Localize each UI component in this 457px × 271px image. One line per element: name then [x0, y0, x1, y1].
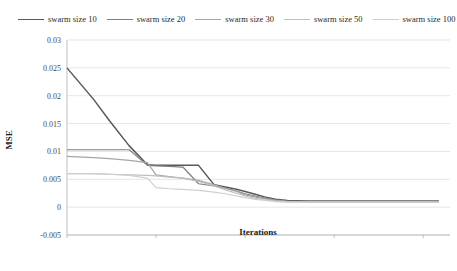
- series-line-swarm-size-10: [67, 68, 439, 201]
- plot-area-wrapper: 0.030.0250.020.0150.010.0050-0.005 11010…: [0, 30, 457, 240]
- legend-item-swarm-size-100[interactable]: swarm size 100: [373, 15, 456, 24]
- x-axis-title: Iterations: [239, 227, 277, 237]
- legend-label: swarm size 30: [225, 15, 274, 24]
- y-tick-label: 0: [57, 203, 61, 212]
- legend-swatch-line-icon: [195, 19, 221, 20]
- legend-item-swarm-size-10[interactable]: swarm size 10: [18, 15, 97, 24]
- gridlines: [67, 40, 450, 235]
- data-series: [67, 68, 439, 202]
- y-axis-title: MSE: [4, 130, 14, 150]
- legend-label: swarm size 10: [48, 15, 97, 24]
- chart-container: swarm size 10swarm size 20swarm size 30s…: [0, 0, 457, 271]
- axis-lines: [67, 40, 450, 235]
- y-tick-label: 0.025: [43, 64, 61, 73]
- y-tick-label: 0.03: [47, 36, 61, 45]
- legend-label: swarm size 20: [137, 15, 186, 24]
- y-tick-label: -0.005: [40, 231, 61, 240]
- y-tick-label: 0.005: [43, 175, 61, 184]
- y-tick-label: 0.015: [43, 120, 61, 129]
- series-line-swarm-size-50: [67, 174, 439, 202]
- legend-item-swarm-size-30[interactable]: swarm size 30: [195, 15, 274, 24]
- y-tick-label: 0.01: [47, 147, 61, 156]
- legend-label: swarm size 100: [403, 15, 456, 24]
- y-axis-ticks: 0.030.0250.020.0150.010.0050-0.005: [40, 36, 61, 240]
- legend-item-swarm-size-20[interactable]: swarm size 20: [107, 15, 186, 24]
- legend-swatch-line-icon: [107, 19, 133, 20]
- legend-swatch-line-icon: [373, 19, 399, 20]
- line-chart-svg: 0.030.0250.020.0150.010.0050-0.005 11010…: [0, 30, 457, 240]
- chart-legend: swarm size 10swarm size 20swarm size 30s…: [18, 12, 448, 26]
- legend-swatch-line-icon: [18, 19, 44, 20]
- legend-label: swarm size 50: [314, 15, 363, 24]
- legend-swatch-line-icon: [284, 19, 310, 20]
- y-tick-label: 0.02: [47, 92, 61, 101]
- legend-item-swarm-size-50[interactable]: swarm size 50: [284, 15, 363, 24]
